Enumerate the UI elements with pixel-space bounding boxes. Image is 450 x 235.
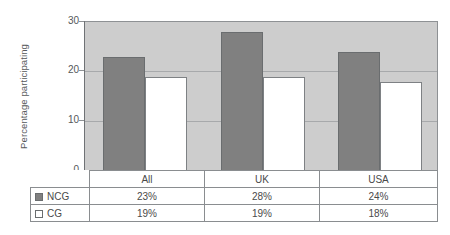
cell-ncg-usa: 24% bbox=[320, 188, 438, 205]
cell-cg-uk: 19% bbox=[205, 205, 320, 222]
bar-ncg-usa bbox=[338, 52, 380, 171]
bar-cg-usa bbox=[380, 82, 422, 171]
y-tick-label-10: 10 bbox=[55, 115, 79, 125]
bar-cg-all bbox=[145, 77, 187, 171]
cell-cg-all: 19% bbox=[90, 205, 205, 222]
table-header-usa: USA bbox=[320, 171, 438, 188]
legend-item-ncg: NCG bbox=[31, 188, 90, 205]
cell-cg-usa: 18% bbox=[320, 205, 438, 222]
table-row: NCG 23% 28% 24% bbox=[31, 188, 438, 205]
legend-item-cg: CG bbox=[31, 205, 90, 222]
bar-chart-figure: Percentage participating 30 20 10 0 bbox=[0, 0, 450, 235]
y-axis-title-text: Percentage participating bbox=[18, 44, 29, 149]
bar-ncg-uk bbox=[221, 32, 263, 171]
legend-label-ncg: NCG bbox=[47, 191, 69, 202]
legend-label-cg: CG bbox=[47, 208, 62, 219]
table-header-all: All bbox=[90, 171, 205, 188]
legend-swatch-cg-icon bbox=[35, 210, 43, 218]
y-tick-label-20: 20 bbox=[55, 65, 79, 75]
bar-ncg-all bbox=[103, 57, 145, 171]
cell-ncg-all: 23% bbox=[90, 188, 205, 205]
table-row: CG 19% 19% 18% bbox=[31, 205, 438, 222]
table-header-uk: UK bbox=[205, 171, 320, 188]
cell-ncg-uk: 28% bbox=[205, 188, 320, 205]
y-tick-label-30: 30 bbox=[55, 16, 79, 26]
data-table: All UK USA NCG 23% 28% 24% CG 19% 19% 18… bbox=[30, 170, 438, 222]
bar-cg-uk bbox=[263, 77, 305, 171]
plot-area bbox=[85, 21, 438, 171]
table-header-row: All UK USA bbox=[31, 171, 438, 188]
legend-swatch-ncg-icon bbox=[35, 193, 43, 201]
y-axis-title: Percentage participating bbox=[10, 20, 36, 172]
table-header-blank bbox=[31, 171, 90, 188]
